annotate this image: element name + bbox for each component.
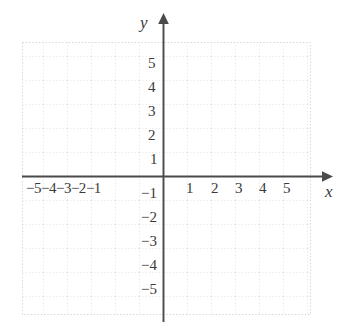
y-tick-label: −2 (141, 210, 157, 225)
x-tick-label: −4 (41, 181, 56, 196)
x-tick-label: 5 (283, 181, 291, 196)
y-tick-label: 1 (150, 152, 158, 167)
x-tick-label: −2 (71, 181, 86, 196)
y-tick-label: 2 (148, 128, 156, 143)
y-tick-label: −4 (141, 258, 157, 273)
y-tick-label: 4 (148, 80, 156, 95)
x-tick-label: 2 (211, 181, 219, 196)
grid (23, 43, 311, 315)
y-tick-label: 5 (148, 56, 156, 71)
x-tick-label: 4 (259, 181, 267, 196)
y-tick-label: −3 (141, 234, 157, 249)
coordinate-plane (0, 0, 348, 331)
y-tick-label: 3 (148, 104, 156, 119)
x-axis-label: x (325, 183, 333, 200)
x-tick-label: −1 (86, 181, 101, 196)
y-axis-label: y (140, 14, 148, 31)
y-tick-label: −5 (141, 282, 157, 297)
x-tick-label: −3 (56, 181, 71, 196)
y-tick-label: −1 (141, 186, 157, 201)
x-negative-tick-labels: −5 −4 −3 −2 −1 (26, 181, 101, 196)
x-tick-label: −5 (26, 181, 41, 196)
x-tick-label: 3 (235, 181, 243, 196)
x-tick-label: 1 (186, 181, 194, 196)
